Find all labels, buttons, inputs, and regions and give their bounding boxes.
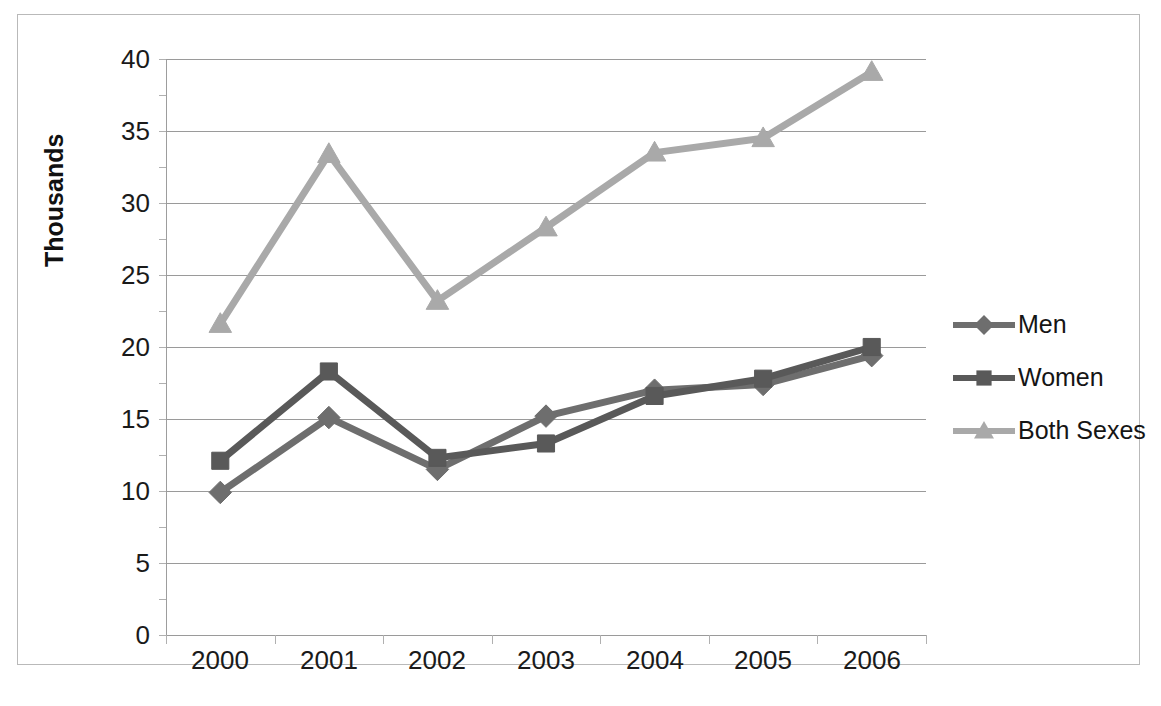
legend-item-label: Women (1015, 363, 1104, 392)
data-point-marker (860, 61, 883, 81)
legend-item-women[interactable]: Women (953, 351, 1153, 404)
y-axis-tick-labels: 0510152025303540 (88, 59, 150, 635)
y-axis-tick-label: 10 (90, 478, 150, 504)
y-axis-tick-mark (159, 563, 166, 564)
data-point-marker (212, 452, 229, 469)
y-axis-tick-mark (159, 95, 166, 96)
series-line (220, 72, 871, 324)
data-point-marker (535, 405, 558, 428)
y-axis-tick-label: 5 (90, 550, 150, 576)
y-axis-tick-mark (159, 599, 166, 600)
data-point-marker (646, 387, 663, 404)
y-axis-tick-mark (159, 347, 166, 348)
y-axis-tick-mark (159, 203, 166, 204)
data-point-marker (863, 338, 880, 355)
legend-item-both-sexes[interactable]: Both Sexes (953, 404, 1153, 457)
legend-swatch-icon (953, 367, 1015, 389)
x-axis-tick-label: 2004 (600, 647, 710, 673)
y-axis-tick-mark (159, 239, 166, 240)
data-point-marker (429, 449, 446, 466)
data-point-marker (320, 363, 337, 380)
x-axis-tick-mark (492, 635, 493, 644)
legend-item-label: Both Sexes (1015, 416, 1146, 445)
gridline (166, 635, 926, 636)
x-axis-tick-label: 2001 (274, 647, 384, 673)
diamond-marker-icon (974, 315, 994, 335)
y-axis-tick-label: 25 (90, 262, 150, 288)
y-axis-tick-mark (159, 383, 166, 384)
y-axis-tick-label: 35 (90, 118, 150, 144)
y-axis-tick-label: 0 (90, 622, 150, 648)
y-axis-tick-mark (159, 311, 166, 312)
x-axis-tick-mark (926, 635, 927, 644)
x-axis-tick-mark (817, 635, 818, 644)
y-axis-tick-mark (159, 59, 166, 60)
chart-frame: Thousands 0510152025303540 2000200120022… (17, 14, 1140, 665)
y-axis-tick-label: 20 (90, 334, 150, 360)
y-axis-tick-label: 40 (90, 46, 150, 72)
x-axis-tick-mark (709, 635, 710, 644)
y-axis-title: Thousands (40, 85, 74, 315)
y-axis-tick-mark (159, 455, 166, 456)
x-axis-tick-label: 2006 (817, 647, 927, 673)
triangle-marker-icon (974, 421, 994, 439)
y-axis-tick-mark (159, 275, 166, 276)
x-axis-tick-label: 2002 (382, 647, 492, 673)
y-axis-tick-label: 30 (90, 190, 150, 216)
y-axis-tick-mark (159, 491, 166, 492)
x-axis-tick-mark (166, 635, 167, 644)
data-point-marker (755, 370, 772, 387)
x-axis-tick-label: 2000 (165, 647, 275, 673)
chart-legend: MenWomenBoth Sexes (953, 298, 1153, 457)
legend-swatch-icon (953, 314, 1015, 336)
data-point-marker (537, 435, 554, 452)
data-point-marker (318, 143, 341, 163)
x-axis-tick-mark (600, 635, 601, 644)
series-women (212, 338, 881, 469)
series-both-sexes (209, 61, 883, 333)
legend-item-men[interactable]: Men (953, 298, 1153, 351)
x-axis-tick-mark (383, 635, 384, 644)
legend-swatch-icon (953, 420, 1015, 442)
x-axis-tick-label: 2003 (491, 647, 601, 673)
y-axis-tick-mark (159, 131, 166, 132)
series-men (209, 344, 883, 503)
x-axis-tick-mark (275, 635, 276, 644)
y-axis-tick-label: 15 (90, 406, 150, 432)
square-marker-icon (976, 370, 991, 385)
y-axis-tick-mark (159, 167, 166, 168)
x-axis-tick-label: 2005 (708, 647, 818, 673)
y-axis-tick-mark (159, 635, 166, 636)
y-axis-tick-mark (159, 419, 166, 420)
x-axis-tick-labels: 2000200120022003200420052006 (166, 647, 926, 687)
plot-area (166, 59, 926, 635)
series-layer (166, 59, 926, 635)
y-axis-tick-mark (159, 527, 166, 528)
legend-item-label: Men (1015, 310, 1067, 339)
